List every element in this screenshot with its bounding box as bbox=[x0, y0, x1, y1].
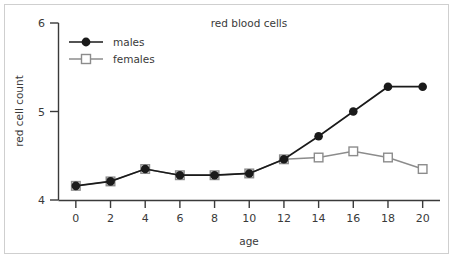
data-point-males bbox=[349, 107, 358, 116]
figure-frame: 456 02468101214161820 red blood cells ag… bbox=[4, 4, 449, 254]
line-chart: 456 02468101214161820 red blood cells ag… bbox=[5, 5, 448, 253]
data-point-males bbox=[314, 132, 323, 141]
x-tick-label: 12 bbox=[277, 212, 291, 225]
x-tick-label: 6 bbox=[176, 212, 183, 225]
legend-marker-filled-circle bbox=[82, 38, 91, 47]
legend-entry-males: males bbox=[69, 36, 145, 48]
x-tick-label: 8 bbox=[211, 212, 218, 225]
y-axis-title: red cell count bbox=[13, 75, 25, 147]
data-point-females bbox=[418, 165, 427, 174]
data-point-males bbox=[106, 177, 115, 186]
y-tick-label: 4 bbox=[38, 194, 45, 207]
x-tick-label: 14 bbox=[312, 212, 326, 225]
x-tick-label: 4 bbox=[142, 212, 149, 225]
data-point-males bbox=[280, 155, 289, 164]
series-males bbox=[72, 82, 427, 190]
legend-marker-open-square bbox=[82, 55, 91, 64]
x-tick-label: 18 bbox=[381, 212, 395, 225]
x-tick-label: 0 bbox=[72, 212, 79, 225]
data-point-females bbox=[314, 153, 323, 162]
y-tick-label: 5 bbox=[38, 106, 45, 119]
data-point-males bbox=[141, 165, 150, 174]
data-point-males bbox=[72, 182, 81, 191]
data-point-females bbox=[384, 153, 393, 162]
x-tick-label: 16 bbox=[346, 212, 360, 225]
legend-label-males: males bbox=[113, 36, 145, 48]
x-tick-label: 10 bbox=[242, 212, 256, 225]
chart-title: red blood cells bbox=[211, 17, 288, 29]
legend-label-females: females bbox=[113, 53, 155, 65]
data-point-males bbox=[245, 169, 254, 178]
legend-entry-females: females bbox=[69, 53, 155, 65]
data-point-males bbox=[384, 82, 393, 91]
data-point-males bbox=[176, 171, 185, 180]
data-series-group bbox=[72, 82, 427, 190]
data-point-males bbox=[210, 171, 219, 180]
x-axis-ticks: 02468101214161820 bbox=[72, 201, 429, 226]
legend: males females bbox=[69, 36, 155, 65]
data-point-females bbox=[349, 147, 358, 156]
x-tick-label: 20 bbox=[416, 212, 430, 225]
figure-container: 456 02468101214161820 red blood cells ag… bbox=[0, 0, 453, 258]
x-tick-label: 2 bbox=[107, 212, 114, 225]
series-females bbox=[72, 147, 427, 190]
y-tick-label: 6 bbox=[38, 17, 45, 30]
y-axis-ticks: 456 bbox=[38, 17, 59, 207]
data-point-males bbox=[418, 82, 427, 91]
x-axis-title: age bbox=[239, 235, 259, 247]
